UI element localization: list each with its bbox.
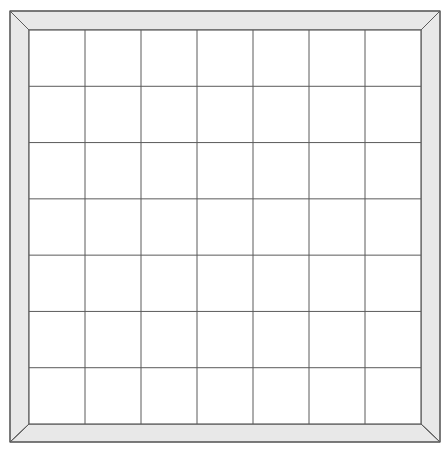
grid-cell xyxy=(197,143,253,199)
grid-cell xyxy=(365,86,421,142)
frame-bottom-bevel xyxy=(10,424,440,442)
grid-cell xyxy=(29,368,85,424)
grid-cell xyxy=(197,255,253,311)
grid-cell xyxy=(197,86,253,142)
grid-cell xyxy=(141,199,197,255)
grid-cell xyxy=(309,199,365,255)
board-canvas xyxy=(0,0,446,450)
grid-cell xyxy=(309,311,365,367)
grid-cell xyxy=(29,30,85,86)
grid-cell xyxy=(365,30,421,86)
grid-cell xyxy=(253,311,309,367)
grid-cell xyxy=(365,368,421,424)
grid-cell xyxy=(141,143,197,199)
grid-cell xyxy=(197,311,253,367)
grid-cell xyxy=(85,86,141,142)
grid-cell xyxy=(253,255,309,311)
grid-cell xyxy=(29,199,85,255)
grid-cell xyxy=(141,368,197,424)
grid-cell xyxy=(365,199,421,255)
grid-cell xyxy=(29,255,85,311)
grid-cell xyxy=(253,86,309,142)
grid-cell xyxy=(85,30,141,86)
grid-cell xyxy=(85,368,141,424)
grid-cell xyxy=(253,143,309,199)
grid-cell xyxy=(365,311,421,367)
grid-cell xyxy=(253,199,309,255)
frame-top-bevel xyxy=(10,11,440,30)
grid-cell xyxy=(29,86,85,142)
grid-cell xyxy=(309,30,365,86)
empty-grid-board xyxy=(0,0,446,450)
grid-cell xyxy=(309,86,365,142)
grid-cell xyxy=(253,368,309,424)
frame-right-bevel xyxy=(421,11,440,442)
grid-cell xyxy=(309,143,365,199)
grid-cell xyxy=(141,30,197,86)
grid-cell xyxy=(141,255,197,311)
grid-cell xyxy=(253,30,309,86)
grid-cells xyxy=(29,30,421,424)
grid-cell xyxy=(85,143,141,199)
grid-cell xyxy=(29,143,85,199)
grid-cell xyxy=(85,199,141,255)
grid-cell xyxy=(141,86,197,142)
frame-left-bevel xyxy=(10,11,29,442)
grid-cell xyxy=(309,368,365,424)
grid-cell xyxy=(85,311,141,367)
grid-cell xyxy=(29,311,85,367)
grid-cell xyxy=(197,368,253,424)
grid-cell xyxy=(85,255,141,311)
grid-cell xyxy=(309,255,365,311)
grid-cell xyxy=(141,311,197,367)
grid-cell xyxy=(365,143,421,199)
grid-cell xyxy=(365,255,421,311)
grid-cell xyxy=(197,199,253,255)
grid-cell xyxy=(197,30,253,86)
